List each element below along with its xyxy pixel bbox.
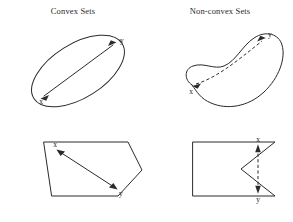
segment-x-to-y (41, 40, 117, 101)
panel-nonconvex-crescent: x y (178, 22, 293, 120)
point-label-y: y (120, 36, 124, 45)
segment-x-to-y (56, 150, 117, 190)
point-label-y: y (256, 195, 260, 204)
arrowhead-at-x (56, 150, 65, 156)
panel-convex-ellipse: x y (20, 22, 150, 120)
point-label-y: y (268, 30, 272, 39)
arrowhead-at-y (255, 186, 261, 194)
arrowhead-at-x (255, 144, 261, 152)
column-title-convex: Convex Sets (0, 6, 146, 16)
column-title-nonconvex: Non-convex Sets (147, 6, 293, 16)
notched-polygon-outline (193, 142, 275, 196)
point-label-y: y (119, 189, 123, 198)
point-label-x: x (53, 140, 57, 149)
convexity-figure: Convex Sets Non-convex Sets x y (0, 0, 293, 222)
crescent-outline (186, 34, 283, 107)
point-label-x: x (256, 135, 260, 144)
panel-nonconvex-polygon: x y (185, 128, 293, 216)
arrowhead-at-y (109, 183, 118, 189)
arrowhead-at-y (257, 36, 266, 42)
segment-x-to-y-dashed (255, 144, 261, 194)
segment-x-to-y-dashed (192, 36, 266, 89)
polygon-outline (44, 142, 142, 196)
panel-convex-polygon: x y (30, 128, 150, 216)
point-label-x: x (39, 97, 43, 106)
point-label-x: x (189, 87, 193, 96)
